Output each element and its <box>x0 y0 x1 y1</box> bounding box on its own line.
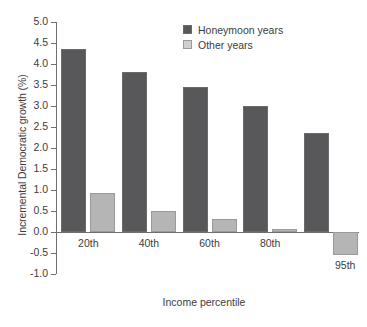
legend-label: Honeymoon years <box>198 24 283 36</box>
legend-swatch-icon <box>183 25 192 34</box>
zero-baseline <box>56 232 359 233</box>
y-tick-label: -0.5 <box>30 246 48 258</box>
y-tick-mark <box>51 106 56 107</box>
bar <box>333 232 358 255</box>
bar <box>212 219 237 232</box>
y-tick-mark <box>51 43 56 44</box>
x-tick-label: 80th <box>233 237 307 249</box>
y-tick-mark <box>51 127 56 128</box>
legend-item-other-years: Other years <box>183 37 283 52</box>
plot-area: 5.04.54.03.53.02.52.01.51.00.50.0-0.5-1.… <box>56 22 359 274</box>
y-tick-mark <box>51 22 56 23</box>
y-tick-label: 3.0 <box>33 99 48 111</box>
y-tick-mark <box>51 253 56 254</box>
x-axis-title: Income percentile <box>48 296 360 308</box>
bar <box>122 72 147 232</box>
bar <box>304 133 329 232</box>
y-tick-label: -1.0 <box>30 267 48 279</box>
y-tick-label: 4.5 <box>33 36 48 48</box>
y-tick-label: 3.5 <box>33 78 48 90</box>
y-tick-mark <box>51 190 56 191</box>
y-tick-label: 0.0 <box>33 225 48 237</box>
y-tick-label: 0.5 <box>33 204 48 216</box>
chart-legend: Honeymoon years Other years <box>183 22 283 52</box>
bar <box>61 49 86 232</box>
bar <box>183 87 208 232</box>
bar <box>272 229 297 232</box>
chart-figure: Incremental Democratic growth (%) 5.04.5… <box>0 0 367 327</box>
bar <box>90 193 115 232</box>
bar <box>243 106 268 232</box>
y-axis-title: Incremental Democratic growth (%) <box>16 35 32 275</box>
legend-item-honeymoon-years: Honeymoon years <box>183 22 283 37</box>
y-tick-label: 1.0 <box>33 183 48 195</box>
y-tick-label: 1.5 <box>33 162 48 174</box>
y-tick-label: 2.0 <box>33 141 48 153</box>
y-tick-label: 2.5 <box>33 120 48 132</box>
bar <box>151 211 176 232</box>
y-tick-mark <box>51 232 56 233</box>
y-tick-mark <box>51 64 56 65</box>
y-tick-mark <box>51 169 56 170</box>
legend-swatch-icon <box>183 40 192 49</box>
y-tick-label: 4.0 <box>33 57 48 69</box>
y-tick-mark <box>51 85 56 86</box>
y-tick-mark <box>51 148 56 149</box>
y-tick-mark <box>51 211 56 212</box>
y-tick-mark <box>51 274 56 275</box>
legend-label: Other years <box>198 39 253 51</box>
y-tick-label: 5.0 <box>33 15 48 27</box>
x-tick-label: 95th <box>323 259 367 271</box>
